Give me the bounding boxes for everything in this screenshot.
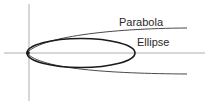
parabola-label: Parabola	[119, 16, 164, 28]
conic-sections-diagram: Parabola Ellipse	[0, 0, 213, 109]
ellipse-label: Ellipse	[137, 36, 169, 48]
vertex-point	[26, 51, 30, 55]
